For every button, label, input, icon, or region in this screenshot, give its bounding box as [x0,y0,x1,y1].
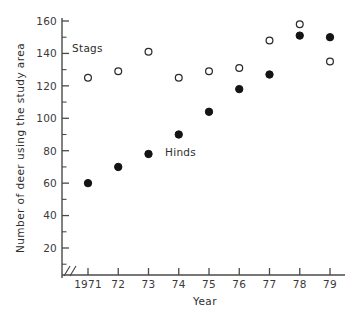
data-point-hinds-79 [326,34,333,41]
data-point-stags-78 [296,21,303,28]
x-tick-label-72: 72 [111,278,125,290]
series-label-hinds: Hinds [165,146,196,158]
y-tick-label-60: 60 [43,177,57,189]
data-point-hinds-72 [115,163,122,170]
data-points-stags [85,21,334,81]
y-tick-label-100: 100 [36,112,57,124]
data-point-stags-75 [206,68,213,75]
x-axis-tick-labels: 19717273747576777879 [74,278,337,290]
deer-population-scatter-chart: 20406080100120140160 1971727374757677787… [0,0,360,322]
x-tick-label-79: 79 [323,278,337,290]
series-label-stags: Stags [72,42,103,54]
x-tick-label-74: 74 [172,278,186,290]
data-point-hinds-76 [236,85,243,92]
y-tick-label-140: 140 [36,47,57,59]
data-point-stags-73 [145,48,152,55]
data-point-stags-77 [266,37,273,44]
x-tick-label-1971: 1971 [74,278,102,290]
data-point-stags-72 [115,68,122,75]
chart-svg: 20406080100120140160 1971727374757677787… [0,0,360,322]
data-point-stags-74 [175,74,182,81]
y-axis-title: Number of deer using the study area [14,43,26,253]
y-axis-tick-labels: 20406080100120140160 [36,15,57,254]
x-axis-ticks [88,268,330,275]
y-tick-label-160: 160 [36,15,57,27]
data-point-stags-1971 [85,74,92,81]
x-tick-label-73: 73 [142,278,156,290]
data-points-hinds [84,32,333,187]
x-tick-label-76: 76 [232,278,246,290]
x-axis-group: 19717273747576777879 [62,268,345,290]
data-point-hinds-77 [266,71,273,78]
data-point-hinds-75 [205,108,212,115]
y-axis-group: 20406080100120140160 [36,15,69,278]
data-point-hinds-1971 [84,179,91,186]
data-point-hinds-74 [175,131,182,138]
x-axis-title: Year [192,295,217,307]
x-tick-label-75: 75 [202,278,216,290]
x-tick-label-77: 77 [263,278,277,290]
data-point-stags-76 [236,65,243,72]
data-point-stags-79 [327,58,334,65]
y-tick-label-80: 80 [43,145,57,157]
data-point-hinds-73 [145,150,152,157]
x-tick-label-78: 78 [293,278,307,290]
y-tick-label-40: 40 [43,209,57,221]
y-tick-label-120: 120 [36,80,57,92]
data-point-hinds-78 [296,32,303,39]
y-tick-label-20: 20 [43,242,57,254]
